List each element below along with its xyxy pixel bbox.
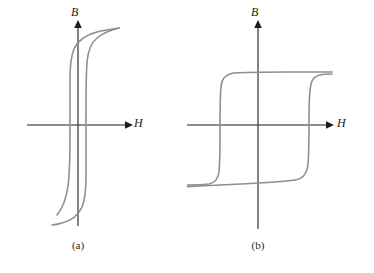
panel-b-h-axis-label: H	[337, 117, 346, 129]
panel-b-caption: (b)	[235, 240, 281, 251]
panel-a-h-axis	[27, 121, 133, 129]
panel-a-h-axis-label: H	[134, 117, 143, 129]
panel-a: B H (a)	[0, 0, 187, 273]
panel-b-h-axis	[187, 121, 334, 129]
panel-a-caption: (a)	[55, 240, 101, 251]
panel-b-b-axis-label: B	[251, 6, 258, 18]
hysteresis-figure: B H (a) B H (b)	[0, 0, 374, 273]
panel-a-hysteresis-loop	[52, 28, 119, 225]
panel-b-plot	[187, 0, 374, 273]
panel-a-b-axis-label: B	[71, 6, 78, 18]
panel-b-hysteresis-loop	[187, 72, 332, 187]
panel-b: B H (b)	[187, 0, 374, 273]
panel-a-b-axis	[74, 20, 82, 226]
panel-a-plot	[0, 0, 187, 273]
